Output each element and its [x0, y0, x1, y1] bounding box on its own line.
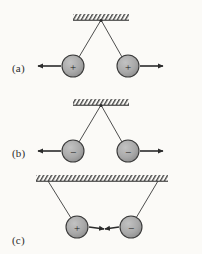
- panel-label-c: (c): [12, 234, 25, 246]
- charge-sign-label: −: [128, 222, 134, 234]
- charge-sign-label: +: [125, 61, 131, 73]
- panel-b: − −: [38, 99, 163, 162]
- charge-ball-positive-left: +: [62, 55, 84, 77]
- charge-ball-negative-right: −: [117, 140, 139, 162]
- string-line-icon: [79, 104, 122, 142]
- charge-ball-negative: −: [120, 216, 142, 238]
- charge-sign-label: −: [125, 146, 131, 158]
- charge-sign-label: −: [70, 146, 76, 158]
- panel-label-b: (b): [12, 147, 25, 159]
- panel-a: + +: [38, 14, 163, 77]
- charge-ball-negative-left: −: [62, 140, 84, 162]
- panel-label-a: (a): [12, 62, 25, 74]
- figure-canvas: + +: [0, 0, 202, 254]
- string-line-icon: [79, 19, 122, 57]
- physics-figure: + +: [0, 0, 202, 254]
- charge-ball-positive: +: [66, 216, 88, 238]
- force-arrow-icon-left: [105, 227, 119, 229]
- hatched-ceiling-icon: [36, 175, 168, 181]
- charge-sign-label: +: [74, 222, 80, 234]
- panel-c: + −: [36, 175, 168, 238]
- charge-sign-label: +: [70, 61, 76, 73]
- charge-ball-positive-right: +: [117, 55, 139, 77]
- string-line-icon: [48, 181, 158, 218]
- force-arrow-icon-right: [89, 227, 104, 229]
